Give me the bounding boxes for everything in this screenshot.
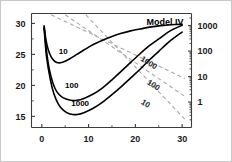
chart-title: Model IV: [146, 17, 183, 27]
series-label-1000: 1000: [71, 99, 89, 108]
series-label-10: 10: [59, 47, 68, 56]
right-tick-label-100: 100: [198, 46, 213, 56]
chart-figure: 0102030152025301000100101 Model IV 10100…: [0, 0, 232, 162]
y-tick-label-30: 30: [15, 19, 25, 29]
x-tick-label-20: 20: [130, 134, 140, 144]
y-tick-label-25: 25: [15, 50, 25, 60]
series-label-100: 100: [65, 81, 79, 90]
right-tick-label-1000: 1000: [198, 21, 218, 31]
right-tick-label-10: 10: [198, 72, 208, 82]
y-tick-label-20: 20: [15, 81, 25, 91]
chart-svg: 0102030152025301000100101 Model IV 10100…: [1, 1, 232, 162]
x-tick-label-30: 30: [177, 134, 187, 144]
right-tick-label-1: 1: [198, 97, 203, 107]
y-tick-label-15: 15: [15, 112, 25, 122]
x-tick-label-10: 10: [84, 134, 94, 144]
x-tick-label-0: 0: [39, 134, 44, 144]
